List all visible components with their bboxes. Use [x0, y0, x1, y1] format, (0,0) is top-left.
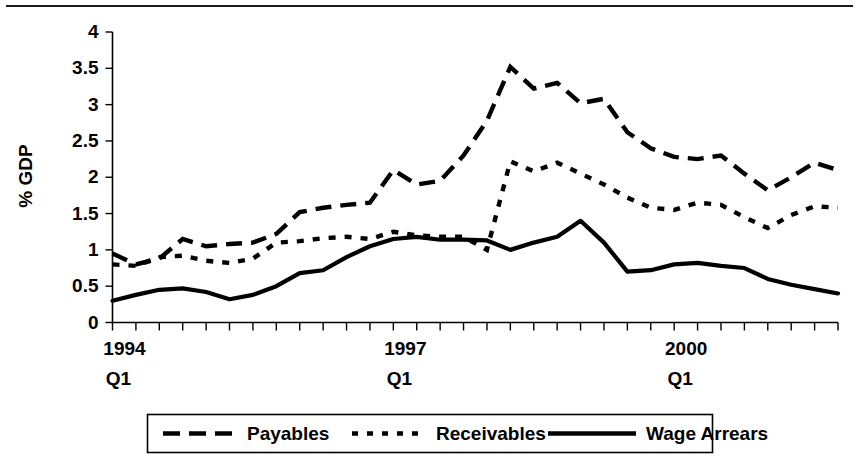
y-axis-tick-labels: 00.511.522.533.54 — [72, 21, 99, 333]
x-axis-ticks — [113, 323, 839, 331]
legend-label-wage-arrears: Wage Arrears — [646, 423, 768, 444]
y-axis-title: % GDP — [15, 144, 36, 208]
y-tick-label: 1 — [88, 239, 99, 260]
x-tick-label-year: 2000 — [665, 338, 707, 359]
y-tick-label: 2.5 — [72, 130, 99, 151]
line-chart-svg: % GDP 00.511.522.533.54 1994Q11997Q12000… — [0, 0, 859, 474]
x-tick-label-year: 1994 — [103, 338, 146, 359]
series-line-wage-arrears — [113, 221, 839, 301]
x-tick-label-quarter: Q1 — [106, 368, 132, 389]
x-tick-label-quarter: Q1 — [667, 368, 693, 389]
y-tick-label: 3.5 — [72, 57, 99, 78]
chart-canvas: % GDP 00.511.522.533.54 1994Q11997Q12000… — [0, 0, 859, 474]
x-axis-tick-labels: 1994Q11997Q12000Q1 — [103, 338, 707, 389]
axis-lines — [113, 32, 839, 323]
y-tick-label: 4 — [88, 21, 99, 42]
y-tick-label: 0 — [88, 312, 99, 333]
y-tick-label: 0.5 — [72, 275, 99, 296]
series-line-receivables — [113, 161, 839, 266]
figure-container: % GDP 00.511.522.533.54 1994Q11997Q12000… — [0, 0, 859, 474]
legend-items-group: PayablesReceivablesWage Arrears — [163, 423, 768, 444]
y-tick-label: 2 — [88, 166, 99, 187]
x-tick-label-quarter: Q1 — [387, 368, 413, 389]
series-line-payables — [113, 67, 839, 265]
y-tick-label: 3 — [88, 94, 99, 115]
legend-label-payables: Payables — [247, 423, 329, 444]
legend-label-receivables: Receivables — [436, 423, 546, 444]
y-tick-label: 1.5 — [72, 203, 99, 224]
chart-legend: PayablesReceivablesWage Arrears — [148, 415, 769, 453]
x-tick-label-year: 1997 — [384, 338, 426, 359]
y-axis-ticks — [106, 32, 113, 323]
